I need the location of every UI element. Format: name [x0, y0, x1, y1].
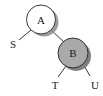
node-b-label: B	[69, 47, 76, 59]
leaf-u-label: U	[91, 79, 99, 91]
node-b: B	[58, 38, 91, 71]
tree-diagram: A B S T U	[0, 0, 103, 96]
leaf-t-label: T	[52, 79, 59, 91]
edge-b-t	[58, 66, 66, 77]
node-a-label: A	[37, 14, 45, 26]
edge-a-s	[19, 30, 31, 40]
node-a: A	[27, 5, 59, 37]
leaf-s-label: S	[10, 38, 16, 50]
